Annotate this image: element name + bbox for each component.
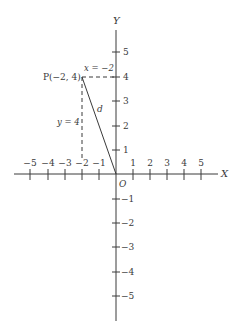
svg-text:−1: −1: [121, 194, 134, 204]
svg-text:2: 2: [123, 121, 129, 131]
svg-text:3: 3: [123, 96, 129, 106]
svg-text:2: 2: [147, 158, 153, 168]
point-label: P(−2, 4): [43, 72, 81, 82]
x-equals-label: x = −2: [84, 63, 114, 73]
y-axis-label: Y: [113, 15, 121, 26]
svg-text:−4: −4: [121, 267, 135, 277]
origin-label: O: [119, 179, 127, 189]
svg-text:3: 3: [164, 158, 170, 168]
svg-text:−1: −1: [92, 158, 105, 168]
distance-label: d: [97, 104, 103, 114]
svg-text:5: 5: [198, 158, 204, 168]
svg-text:4: 4: [123, 72, 129, 82]
svg-text:1: 1: [123, 145, 129, 155]
svg-text:−5: −5: [121, 291, 135, 301]
svg-text:5: 5: [123, 47, 129, 57]
y-equals-label: y = 4: [56, 117, 80, 127]
svg-text:−4: −4: [41, 158, 55, 168]
svg-text:1: 1: [130, 158, 136, 168]
svg-text:−2: −2: [121, 218, 134, 228]
svg-text:−3: −3: [121, 242, 135, 252]
svg-text:−2: −2: [75, 158, 88, 168]
svg-text:−5: −5: [23, 158, 37, 168]
x-axis-label: X: [220, 168, 229, 179]
coordinate-diagram: −5 −4 −3 −2 −1 1 2 3 4 5 1 2 3 4 5 −1 −2…: [0, 0, 240, 334]
svg-text:4: 4: [181, 158, 187, 168]
svg-text:−3: −3: [58, 158, 72, 168]
